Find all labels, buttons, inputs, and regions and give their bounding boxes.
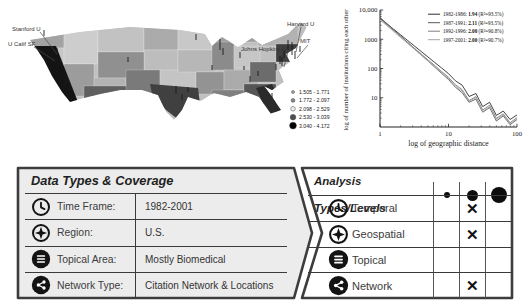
mark-cell-0 — [433, 248, 459, 273]
us-choropleth-map: Stanford UU Calif SFHarvard UMITJohns Ho… — [0, 0, 345, 162]
row-value: U.S. — [135, 220, 287, 245]
legend-symbol — [291, 107, 296, 112]
map-label-harvard-u: Harvard U — [287, 21, 314, 27]
mark-cell-2 — [485, 273, 512, 298]
mark-cell-1: ✕ — [459, 273, 485, 298]
map-label-stanford-u: Stanford U — [12, 26, 41, 32]
geospatial-icon — [31, 223, 51, 243]
analysis-row-topical: Topical — [308, 247, 512, 273]
row-icon-cell — [25, 273, 57, 298]
data-types-panel: Data Types & Coverage Time Frame: 1982-2… — [18, 168, 294, 298]
citation-distance-chart: 10100100010,000110100log of geographic d… — [340, 0, 524, 162]
data-panel-rows: Time Frame: 1982-2001 Region: U.S. Topic… — [18, 193, 294, 298]
row-icon-cell — [324, 248, 352, 273]
row-label: Network Type: — [57, 273, 135, 298]
mark-cell-2 — [485, 248, 512, 273]
row-label: Temporal — [352, 196, 433, 221]
row-label: Topical Area: — [57, 247, 135, 272]
mark-cell-1: ✕ — [459, 196, 485, 221]
legend-entry-1992-1996: 1992-1996: 2.00 (R²=90.8%) — [443, 28, 504, 35]
x-tick-label: 1 — [378, 130, 381, 137]
mark-cell-1 — [459, 248, 485, 273]
legend-range: 1.772 - 2.097 — [299, 97, 330, 103]
geospatial-icon — [328, 224, 349, 245]
x-tick-label: 100 — [512, 130, 523, 137]
legend-symbol — [292, 91, 295, 94]
map-legend: 1.505 - 1.7711.772 - 2.0972.098 - 2.5292… — [290, 89, 330, 129]
row-label: Topical — [352, 248, 433, 273]
legend-range: 1.505 - 1.771 — [299, 89, 330, 95]
x-mark: ✕ — [466, 227, 479, 242]
map-label-johns-hopkins-u: Johns Hopkins U — [241, 46, 286, 52]
analysis-row-network: Network ✕ — [308, 272, 512, 298]
legend-range: 2.098 - 2.529 — [299, 106, 330, 112]
data-row-network-type: Network Type: Citation Network & Locatio… — [25, 272, 287, 298]
mark-cell-2 — [485, 196, 512, 221]
y-tick-label: 100 — [367, 65, 378, 72]
mark-cell-0 — [433, 273, 459, 298]
state-florida — [256, 84, 284, 114]
mark-cell-1: ✕ — [459, 222, 485, 247]
legend-entry-1982-1986: 1982-1986: 1.94 (R²=93.5%) — [443, 11, 504, 18]
row-icon-cell — [25, 194, 57, 219]
mark-cell-2 — [485, 222, 512, 247]
legend-symbol — [290, 114, 296, 120]
y-tick-label: 10 — [371, 94, 378, 101]
map-state-patches — [28, 22, 307, 124]
clock-icon — [328, 198, 349, 219]
topical-icon — [31, 249, 51, 269]
x-mark: ✕ — [466, 201, 479, 216]
label-leader-line — [297, 45, 308, 58]
data-row-topical-area: Topical Area: Mostly Biomedical — [25, 246, 287, 272]
x-mark: ✕ — [466, 278, 479, 293]
row-label: Time Frame: — [57, 194, 135, 219]
legend-entry-1997-2001: 1997-2001: 2.00 (R²=90.7%) — [443, 37, 504, 44]
data-row-region: Region: U.S. — [25, 219, 287, 245]
legend-symbol — [290, 122, 297, 129]
row-icon-cell — [324, 196, 352, 221]
legend-range: 2.530 - 3.039 — [299, 114, 330, 120]
map-label-u-calif-sf: U Calif SF — [8, 41, 36, 47]
x-axis-label: log of geographic distance — [408, 139, 489, 148]
row-icon-cell — [25, 220, 57, 245]
mark-cell-0 — [433, 222, 459, 247]
row-label: Geospatial — [352, 222, 433, 247]
analysis-panel-rows: Temporal ✕ Geospatial ✕ Topical Network … — [308, 195, 512, 298]
analysis-row-geospatial: Geospatial ✕ — [308, 221, 512, 247]
legend-range: 3.040 - 4.172 — [299, 123, 330, 129]
row-icon-cell — [324, 273, 352, 298]
analysis-panel-header: Analysis Types/Levels — [308, 168, 512, 195]
chart-legend: 1982-1986: 1.94 (R²=93.5%)1987-1991: 2.1… — [428, 11, 504, 44]
data-row-time-frame: Time Frame: 1982-2001 — [25, 193, 287, 219]
row-value: Citation Network & Locations — [135, 273, 287, 298]
row-icon-cell — [25, 247, 57, 272]
row-value: 1982-2001 — [135, 194, 287, 219]
row-label: Network — [352, 273, 433, 298]
map-label-mit: MIT — [300, 38, 311, 44]
row-icon-cell — [324, 222, 352, 247]
clock-icon — [31, 197, 51, 217]
y-tick-label: 10,000 — [359, 6, 378, 13]
legend-entry-1987-1991: 1987-1991: 2.11 (R²=93.5%) — [443, 20, 503, 27]
y-axis-label: log of number of institutions citing eac… — [342, 9, 349, 131]
network-icon — [31, 275, 51, 295]
row-value: Mostly Biomedical — [135, 247, 287, 272]
mark-cell-0 — [433, 196, 459, 221]
network-icon — [328, 275, 349, 296]
x-tick-label: 10 — [445, 130, 452, 137]
data-panel-title: Data Types & Coverage — [18, 168, 294, 193]
figure-stage: Stanford UU Calif SFHarvard UMITJohns Ho… — [0, 0, 524, 306]
topical-icon — [328, 249, 349, 270]
analysis-row-temporal: Temporal ✕ — [308, 195, 512, 221]
legend-symbol — [291, 99, 295, 103]
row-label: Region: — [57, 220, 135, 245]
analysis-types-panel: Analysis Types/Levels Temporal ✕ Geospat… — [308, 168, 512, 298]
y-tick-label: 1000 — [364, 36, 378, 43]
